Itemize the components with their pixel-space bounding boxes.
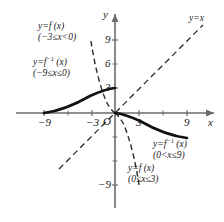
annotation-f-inverse-left-exponent: −1 xyxy=(46,55,54,62)
annotation-f-lower-right-line2: (0≤x≤3) xyxy=(128,174,158,185)
annotation-f-inverse-right: y=f−1 (x) (0<x≤9) xyxy=(153,137,187,160)
annotation-f-upper-left: y=f (x) (−3≤x<0) xyxy=(38,21,76,42)
annotation-f-upper-left-line2: (−3≤x<0) xyxy=(38,32,76,43)
x-tick-label-9: 9 xyxy=(184,116,190,128)
annotation-f-inverse-right-base: y=f xyxy=(153,139,166,149)
x-tick-label-neg9: −9 xyxy=(38,116,51,128)
annotation-f-lower-right-line1: y=f (x) xyxy=(128,163,158,174)
annotation-f-inverse-left-line1: y=f−1 (x) xyxy=(33,55,70,68)
y-tick-label-3: 3 xyxy=(105,81,111,93)
y-axis-label: y xyxy=(103,8,108,20)
y-tick-label-neg9: −9 xyxy=(98,178,111,190)
curve-f-upper-left xyxy=(91,41,115,113)
annotation-f-inverse-right-line2: (0<x≤9) xyxy=(153,150,187,161)
x-tick-label-3: 3 xyxy=(136,116,142,128)
coordinate-plane xyxy=(0,0,224,222)
curve-f-inverse-right xyxy=(115,113,187,138)
y-tick-label-9: 9 xyxy=(105,33,111,45)
annotation-f-inverse-right-arg: (x) xyxy=(174,139,187,149)
annotation-f-inverse-left-arg: (x) xyxy=(54,57,67,67)
function-graph-figure: x y O −9 −3 3 9 3 6 9 −9 y=x y=f (x) (−3… xyxy=(0,0,224,222)
identity-line-label: y=x xyxy=(189,13,204,24)
annotation-f-inverse-left-line2: (−9≤x≤0) xyxy=(33,68,70,79)
annotation-f-upper-left-line1: y=f (x) xyxy=(38,21,76,32)
annotation-f-inverse-right-line1: y=f−1 (x) xyxy=(153,137,187,150)
annotation-f-lower-right: y=f (x) (0≤x≤3) xyxy=(128,163,158,184)
annotation-f-inverse-left-base: y=f xyxy=(33,57,46,67)
y-tick-label-6: 6 xyxy=(105,57,111,69)
annotation-f-inverse-left: y=f−1 (x) (−9≤x≤0) xyxy=(33,55,70,78)
x-axis-label: x xyxy=(208,116,213,128)
annotation-f-inverse-right-exponent: −1 xyxy=(166,137,174,144)
x-tick-label-neg3: −3 xyxy=(86,116,99,128)
origin-label: O xyxy=(103,115,111,127)
